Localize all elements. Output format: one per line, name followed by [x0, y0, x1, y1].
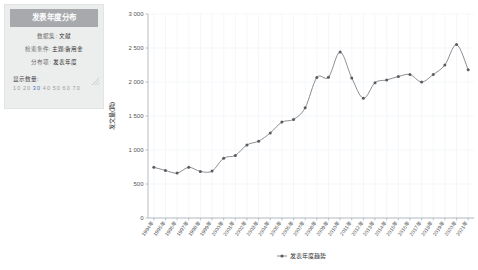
y-tick-label: 1 000 [128, 147, 144, 153]
y-tick-label: 2 000 [128, 79, 144, 85]
y-tick-label: 2 500 [128, 45, 144, 51]
series-points [152, 43, 469, 175]
data-point-1995年[interactable] [164, 169, 167, 172]
data-point-2020年[interactable] [455, 43, 458, 46]
info-row-distribution: 分布项: 发表年度 [10, 58, 98, 66]
data-point-2004年[interactable] [269, 132, 272, 135]
info-row-distribution-value: 发表年度 [53, 59, 77, 65]
legend-label: 发表年度趋势 [290, 252, 326, 260]
year-distribution-line-chart: 05001 0001 5002 0002 5003 000 1994年1995年… [104, 0, 478, 270]
chart-gridlines [148, 14, 474, 218]
data-point-2001年[interactable] [234, 154, 237, 157]
data-point-2009年[interactable] [327, 76, 330, 79]
chart-legend: 发表年度趋势 [277, 252, 326, 260]
display-count-option-70[interactable]: 70 [72, 85, 80, 91]
data-point-2014年[interactable] [385, 78, 388, 81]
display-count-label: 显示数量: [13, 75, 103, 83]
x-axis: 1994年1995年1996年1997年1998年1999年2000年2001年… [139, 218, 474, 238]
y-tick-label: 500 [133, 181, 144, 187]
y-tick-label: 1 500 [128, 113, 144, 119]
display-count-option-60[interactable]: 60 [63, 85, 71, 91]
display-count-option-20[interactable]: 20 [23, 85, 31, 91]
info-row-query: 检索条件: 主题:备用金 [10, 45, 98, 53]
y-axis: 05001 0001 5002 0002 5003 000 [128, 11, 148, 221]
data-point-2017年[interactable] [420, 81, 423, 84]
info-row-dataset-value: 文献 [59, 33, 71, 39]
series-line-publication-trend [154, 45, 468, 174]
data-point-1999年[interactable] [211, 170, 214, 173]
data-point-1998年[interactable] [199, 170, 202, 173]
x-tick-label: 2021年 [454, 220, 470, 238]
data-point-2010年[interactable] [339, 51, 342, 54]
display-count-option-10[interactable]: 10 [13, 85, 21, 91]
data-point-2011年[interactable] [350, 76, 353, 79]
info-row-query-value: 主题:备用金 [52, 46, 84, 52]
display-count-option-30[interactable]: 30 [33, 85, 41, 91]
data-point-2015年[interactable] [397, 75, 400, 78]
info-row-dataset: 数据集: 文献 [10, 32, 98, 40]
data-point-2003年[interactable] [257, 140, 260, 143]
distribution-info-panel: 发表年度分布 数据集: 文献 检索条件: 主题:备用金 分布项: 发表年度 显示… [4, 4, 104, 109]
resize-handle-icon[interactable] [91, 77, 100, 86]
info-row-distribution-key: 分布项: [31, 59, 51, 65]
y-tick-label: 0 [140, 215, 144, 221]
display-count-option-40[interactable]: 40 [43, 85, 51, 91]
data-point-2019年[interactable] [443, 64, 446, 67]
data-point-2008年[interactable] [315, 76, 318, 79]
data-point-2018年[interactable] [432, 73, 435, 76]
y-axis-title: 发文量(篇) [108, 102, 116, 130]
panel-title: 发表年度分布 [10, 9, 98, 27]
legend-dot-marker [280, 254, 283, 257]
data-point-2000年[interactable] [222, 157, 225, 160]
data-point-2007年[interactable] [304, 106, 307, 109]
data-point-1994年[interactable] [152, 166, 155, 169]
chart-container: 05001 0001 5002 0002 5003 000 1994年1995年… [104, 0, 478, 270]
display-count-block: 显示数量: 10203040506070 [13, 75, 103, 91]
data-point-2012年[interactable] [362, 97, 365, 100]
data-point-2013年[interactable] [374, 81, 377, 84]
data-point-2005年[interactable] [280, 121, 283, 124]
display-count-options[interactable]: 10203040506070 [13, 85, 103, 91]
data-point-2006年[interactable] [292, 118, 295, 121]
data-point-2002年[interactable] [245, 143, 248, 146]
y-tick-label: 3 000 [128, 11, 144, 17]
data-point-2016年[interactable] [408, 73, 411, 76]
data-point-1996年[interactable] [176, 172, 179, 175]
display-count-option-50[interactable]: 50 [53, 85, 61, 91]
data-point-2021年[interactable] [467, 68, 470, 71]
data-point-1997年[interactable] [187, 166, 190, 169]
info-row-query-key: 检索条件: [25, 46, 51, 52]
info-row-dataset-key: 数据集: [37, 33, 57, 39]
